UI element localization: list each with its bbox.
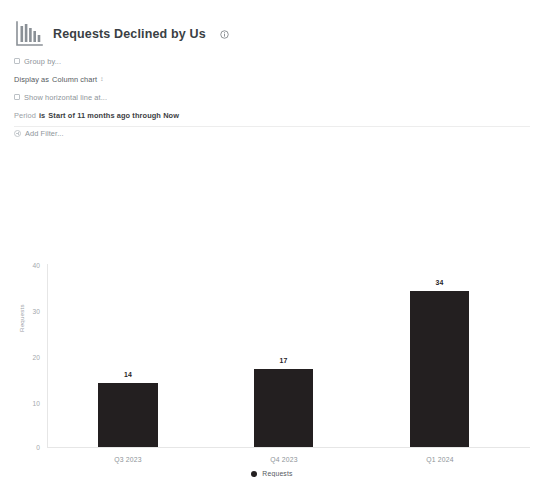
display-as-value[interactable]: Column chart xyxy=(52,75,97,84)
bar-value-label: 34 xyxy=(410,279,469,286)
horizontal-line-label: Show horizontal line at... xyxy=(24,93,107,102)
bar-value-label: 17 xyxy=(254,357,313,364)
legend-label-requests[interactable]: Requests xyxy=(262,470,292,477)
x-tick-label: Q3 2023 xyxy=(88,456,168,463)
bar-q3-2023[interactable] xyxy=(98,383,158,447)
bar-q1-2024[interactable] xyxy=(410,291,469,447)
chevron-updown-icon[interactable]: ↕ xyxy=(100,76,103,83)
group-by-label: Group by... xyxy=(24,57,61,66)
page-title: Requests Declined by Us xyxy=(53,27,206,41)
option-group-by[interactable]: Group by... xyxy=(14,55,414,68)
y-tick-label: 20 xyxy=(14,354,40,361)
y-tick-label: 30 xyxy=(14,308,40,315)
display-as-label: Display as xyxy=(14,75,49,84)
bar-q4-2023[interactable] xyxy=(254,369,313,447)
option-display-as[interactable]: Display as Column chart ↕ xyxy=(14,73,414,86)
y-tick-label: 40 xyxy=(14,262,40,269)
period-value[interactable]: Start of 11 months ago through Now xyxy=(48,111,179,120)
y-tick-label: 10 xyxy=(14,400,40,407)
legend-swatch-requests xyxy=(251,471,257,477)
y-axis-line xyxy=(47,264,48,448)
period-label: Period xyxy=(14,111,36,120)
option-horizontal-line[interactable]: Show horizontal line at... xyxy=(14,91,414,104)
chart-legend: Requests xyxy=(0,470,544,477)
info-icon[interactable] xyxy=(220,25,229,43)
bar-chart-icon xyxy=(14,20,44,48)
group-by-checkbox[interactable] xyxy=(14,58,20,64)
chart-plot-area: Requests 40 30 20 10 0 14 17 34 Q3 2023 … xyxy=(0,126,544,371)
period-operator: is xyxy=(39,111,45,120)
y-tick-label: 0 xyxy=(14,444,40,451)
horizontal-line-checkbox[interactable] xyxy=(14,94,20,100)
x-tick-label: Q4 2023 xyxy=(244,456,324,463)
option-period[interactable]: Period is Start of 11 months ago through… xyxy=(14,109,414,122)
widget-header: Requests Declined by Us xyxy=(14,20,229,48)
x-tick-label: Q1 2024 xyxy=(400,456,480,463)
bar-value-label: 14 xyxy=(98,371,158,378)
x-axis-line xyxy=(47,447,530,448)
